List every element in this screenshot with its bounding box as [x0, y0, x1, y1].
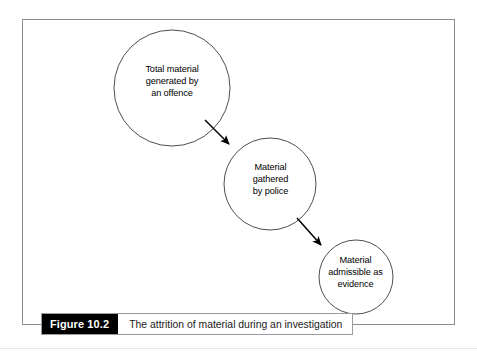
node-label-material-admissible: Material admissible as evidence — [317, 255, 394, 290]
figure-number-badge: Figure 10.2 — [42, 314, 118, 334]
node-label-total-material: Total material generated by an offence — [113, 64, 231, 99]
page-bottom-rule — [0, 348, 477, 349]
figure-caption-text: The attrition of material during an inve… — [118, 314, 352, 334]
figure-page: Total material generated by an offence M… — [0, 0, 477, 356]
figure-caption: Figure 10.2 The attrition of material du… — [41, 313, 353, 335]
node-label-material-gathered: Material gathered by police — [224, 162, 317, 197]
